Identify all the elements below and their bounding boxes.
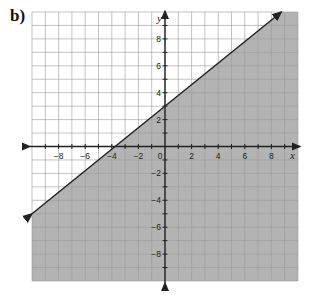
x-tick-label: 6 <box>242 151 247 161</box>
y-tick-label: 2 <box>156 115 161 125</box>
x-tick-label: 2 <box>189 151 194 161</box>
x-tick-label: −2 <box>134 151 144 161</box>
y-tick-label: 4 <box>156 88 161 98</box>
y-tick-label: −6 <box>151 222 161 232</box>
y-tick-label: 8 <box>156 34 161 44</box>
x-tick-label: 8 <box>269 151 274 161</box>
x-tick-label: 0 <box>158 151 163 161</box>
y-tick-label: 6 <box>156 61 161 71</box>
y-tick-label: −8 <box>151 249 161 259</box>
y-axis-label: y <box>156 12 162 24</box>
x-tick-label: −6 <box>80 151 90 161</box>
x-tick-label: −8 <box>54 151 64 161</box>
inequality-graph: −8−6−4−2024688642−2−4−6−8xy <box>0 0 317 295</box>
y-tick-label: −4 <box>151 195 161 205</box>
x-tick-label: 4 <box>216 151 221 161</box>
y-tick-label: −2 <box>151 168 161 178</box>
x-axis-label: x <box>289 149 295 161</box>
